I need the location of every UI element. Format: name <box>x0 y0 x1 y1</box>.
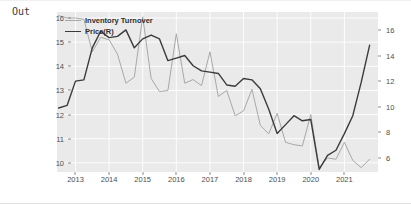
y-axis-left-tick-label: 10 <box>56 158 68 167</box>
x-axis-tick-label: 2015 <box>134 175 151 184</box>
x-axis-tick-label: 2014 <box>101 175 118 184</box>
x-axis-tick-label: 2021 <box>336 175 353 184</box>
y-axis-right-tick-mark <box>378 29 381 30</box>
y-axis-right-tick-mark <box>378 106 381 107</box>
chart-series-layer <box>59 16 370 170</box>
legend-label: Price(R) <box>85 27 114 36</box>
x-axis-tick-label: 2017 <box>202 175 219 184</box>
y-axis-right-tick-label: 6 <box>382 153 390 162</box>
legend-item-inventory-turnover: Inventory Turnover <box>65 16 153 25</box>
x-axis-tick-mark <box>344 172 345 175</box>
x-axis-tick-mark <box>109 172 110 175</box>
y-axis-right-tick-mark <box>378 132 381 133</box>
y-axis-left-tick-label: 11 <box>56 134 68 143</box>
y-axis-right-tick-mark <box>378 157 381 158</box>
y-axis-right-tick-label: 12 <box>382 77 394 86</box>
chart-figure: 10111213141516 6810121416 20132014201520… <box>57 12 392 190</box>
x-axis-tick-mark <box>75 172 76 175</box>
output-prompt-label: Out <box>12 6 30 17</box>
cell-top-divider <box>0 0 411 1</box>
x-axis-tick-mark <box>310 172 311 175</box>
x-axis-tick-mark <box>209 172 210 175</box>
y-axis-right-tick-label: 10 <box>382 102 394 111</box>
y-axis-left-tick-mark <box>68 90 71 91</box>
y-axis-left-tick-mark <box>68 114 71 115</box>
notebook-output-cell: Out 10111213141516 6810121416 2013201420… <box>0 0 411 204</box>
y-axis-left-tick-mark <box>68 42 71 43</box>
x-axis-tick-label: 2013 <box>67 175 84 184</box>
x-axis-tick-mark <box>277 172 278 175</box>
y-axis-left-tick-mark <box>68 138 71 139</box>
x-axis-tick-mark <box>176 172 177 175</box>
series-line-2 <box>59 30 370 170</box>
x-axis-tick-mark <box>243 172 244 175</box>
cell-bottom-divider <box>0 203 411 204</box>
x-axis-tick-label: 2018 <box>235 175 252 184</box>
chart-plot-area <box>57 12 378 172</box>
y-axis-left-tick-label: 13 <box>56 86 68 95</box>
x-axis-tick-label: 2019 <box>269 175 286 184</box>
y-axis-right-tick-mark <box>378 55 381 56</box>
y-axis-right-tick-label: 8 <box>382 128 390 137</box>
x-axis-tick-label: 2020 <box>302 175 319 184</box>
y-axis-left-tick-mark <box>68 162 71 163</box>
y-axis-left-tick-label: 14 <box>56 62 68 71</box>
chart-legend: Inventory Turnover Price(R) <box>65 16 153 36</box>
legend-line-swatch-icon <box>65 20 81 21</box>
y-axis-left-tick-mark <box>68 66 71 67</box>
chart-canvas <box>57 12 378 172</box>
x-axis-tick-mark <box>142 172 143 175</box>
y-axis-right-tick-label: 16 <box>382 25 394 34</box>
legend-line-swatch-icon <box>65 31 81 32</box>
y-axis-right-tick-mark <box>378 81 381 82</box>
y-axis-right-tick-label: 14 <box>382 51 394 60</box>
y-axis-left-tick-label: 15 <box>56 38 68 47</box>
legend-item-price: Price(R) <box>65 27 153 36</box>
x-axis-tick-label: 2016 <box>168 175 185 184</box>
legend-label: Inventory Turnover <box>85 16 153 25</box>
y-axis-left-tick-label: 12 <box>56 110 68 119</box>
series-line-1 <box>59 16 370 168</box>
